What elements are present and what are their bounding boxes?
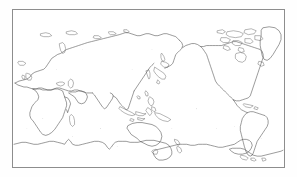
world-map-svg xyxy=(13,10,284,167)
page-canvas: World map outline showing continents as … xyxy=(0,0,297,177)
map-figure-frame: World map outline showing continents as … xyxy=(12,9,285,168)
